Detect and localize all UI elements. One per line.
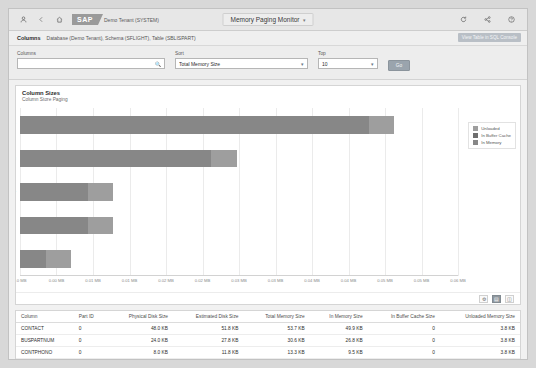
bar-group[interactable]: CONTPHONO — [20, 175, 458, 209]
person-icon[interactable] — [15, 12, 31, 28]
bar-group[interactable]: BUSPARTNUM — [20, 142, 458, 176]
table-column-header[interactable]: In Memory Size — [310, 311, 368, 323]
legend-label: In Memory — [481, 140, 501, 145]
sort-select[interactable]: Total Memory Size ▾ — [175, 58, 308, 69]
legend-item[interactable]: In Memory — [473, 140, 511, 145]
bar-segment[interactable] — [20, 183, 88, 200]
bar-segment[interactable] — [88, 217, 114, 234]
home-icon[interactable] — [51, 12, 67, 28]
chart-legend[interactable]: UnloadedIn Buffer CacheIn Memory — [468, 122, 516, 149]
table-column-header[interactable]: Part ID — [74, 311, 107, 323]
y-axis-category-label: CONTPHONO — [15, 189, 16, 194]
legend-swatch — [473, 126, 478, 131]
breadcrumb: Database (Demo Tenant), Schema (SFLIGHT)… — [47, 35, 196, 41]
legend-item[interactable]: In Buffer Cache — [473, 133, 511, 138]
table-cell: 0 — [368, 323, 440, 335]
share-icon[interactable] — [479, 12, 495, 28]
sub-header: Columns Database (Demo Tenant), Schema (… — [9, 31, 527, 46]
table-column-header[interactable]: Estimated Disk Size — [173, 311, 243, 323]
legend-label: Unloaded — [481, 126, 499, 131]
chart-toolbar: ⚙ ▤ ◫ — [16, 292, 520, 304]
chart-card-header: Column Sizes Column Store Paging — [16, 86, 520, 104]
table-cell: 3.8 KB — [440, 335, 520, 347]
view-table-in-sql-console-button[interactable]: View Table in SQL Console — [458, 33, 521, 42]
table-cell: 8.0 KB — [107, 347, 173, 359]
shell-bar-actions — [455, 9, 521, 30]
table-cell: CONTPHONO — [16, 347, 74, 359]
legend-swatch — [473, 140, 478, 145]
chart-card: Column Sizes Column Store Paging CONTACT… — [15, 85, 521, 305]
sub-header-label: Columns — [17, 35, 41, 41]
top-select-value: 10 — [322, 61, 369, 67]
shell-bar: SAP Demo Tenant (SYSTEM) Memory Paging M… — [9, 9, 527, 31]
back-icon[interactable] — [33, 12, 49, 28]
x-tick-label: 0.01 MB — [122, 278, 138, 283]
table-column-header[interactable]: Unloaded Memory Size — [440, 311, 520, 323]
settings-icon[interactable]: ⚙ — [479, 295, 488, 303]
table-row[interactable]: BUSPARTNUM024.0 KB27.8 KB30.6 KB26.8 KB0… — [16, 335, 520, 347]
table-cell: 27.8 KB — [173, 335, 243, 347]
table-cell: 0 — [74, 347, 107, 359]
refresh-icon[interactable] — [455, 12, 471, 28]
bar-segment[interactable] — [211, 150, 237, 167]
x-tick-label: 0.0 MB — [15, 278, 27, 283]
chart-title: Column Sizes — [22, 90, 514, 96]
chart-subtitle: Column Store Paging — [22, 97, 514, 102]
page-title-selector[interactable]: Memory Paging Monitor ▾ — [223, 13, 314, 26]
chart-plot-area: CONTACTBUSPARTNUMCONTPHONOMANDANTBUSPRTY… — [16, 104, 520, 292]
chevron-down-icon[interactable]: ▾ — [301, 61, 304, 67]
table-column-header[interactable]: In Buffer Cache Size — [368, 311, 440, 323]
table-cell: 9.5 KB — [310, 347, 368, 359]
table-column-header[interactable]: Column — [16, 311, 74, 323]
sort-select-value: Total Memory Size — [179, 61, 299, 67]
help-icon[interactable] — [503, 12, 519, 28]
table-cell: 13.3 KB — [243, 347, 309, 359]
y-axis-category-label: BUSPARTNUM — [15, 156, 16, 161]
bar-group[interactable]: MANDANT — [20, 209, 458, 243]
table-row[interactable]: CONTACT048.0 KB51.8 KB53.7 KB49.9 KB03.8… — [16, 323, 520, 335]
y-axis-category-label: CONTACT — [15, 122, 16, 127]
table-cell: 26.8 KB — [310, 335, 368, 347]
legend-swatch — [473, 133, 478, 138]
go-button[interactable]: Go — [388, 60, 410, 71]
table-header-row: ColumnPart IDPhysical Disk SizeEstimated… — [16, 311, 520, 323]
bar-chart-icon[interactable]: ▤ — [492, 295, 501, 303]
columns-filter-label: Columns — [17, 51, 165, 56]
data-table-card: ColumnPart IDPhysical Disk SizeEstimated… — [15, 310, 521, 360]
columns-input[interactable]: 🔍 — [17, 58, 165, 69]
bar-segment[interactable] — [88, 183, 114, 200]
bar-segment[interactable] — [20, 250, 46, 267]
table-cell: 0 — [368, 347, 440, 359]
bar-group[interactable]: CONTACT — [20, 108, 458, 142]
sort-filter-label: Sort — [175, 51, 308, 56]
table-cell: 0 — [74, 323, 107, 335]
bar-segment[interactable] — [369, 116, 395, 133]
bar-segment[interactable] — [20, 116, 369, 133]
bar-segment[interactable] — [46, 250, 72, 267]
x-axis-tick-labels: 0.0 MB0.00 MB0.01 MB0.01 MB0.02 MB0.02 M… — [20, 278, 458, 288]
bar-chart[interactable]: CONTACTBUSPARTNUMCONTPHONOMANDANTBUSPRTY… — [20, 108, 458, 292]
filter-bar: Columns 🔍 Sort Total Memory Size ▾ Top 1… — [9, 46, 527, 80]
top-filter-label: Top — [318, 51, 378, 56]
table-row[interactable]: CONTPHONO08.0 KB11.8 KB13.3 KB9.5 KB03.8… — [16, 347, 520, 359]
bar-group[interactable]: BUSPRTYP — [20, 242, 458, 276]
table-column-header[interactable]: Physical Disk Size — [107, 311, 173, 323]
x-tick-label: 0.04 MB — [304, 278, 320, 283]
bar-segment[interactable] — [20, 150, 211, 167]
legend-label: In Buffer Cache — [481, 133, 511, 138]
table-column-header[interactable]: Total Memory Size — [243, 311, 309, 323]
table-cell: 53.7 KB — [243, 323, 309, 335]
sap-logo[interactable]: SAP — [72, 14, 98, 25]
table-cell: 0 — [368, 335, 440, 347]
gridline — [458, 108, 459, 276]
value-help-icon[interactable]: 🔍 — [155, 61, 161, 67]
top-select[interactable]: 10 ▾ — [318, 58, 378, 69]
chevron-down-icon[interactable]: ▾ — [371, 61, 374, 67]
x-tick-label: 0.03 MB — [231, 278, 247, 283]
table-cell: BUSPARTNUM — [16, 335, 74, 347]
legend-item[interactable]: Unloaded — [473, 126, 511, 131]
bar-segment[interactable] — [20, 217, 88, 234]
table-icon[interactable]: ◫ — [505, 295, 514, 303]
y-axis-category-label: BUSPRTYP — [15, 257, 16, 262]
x-tick-label: 0.03 MB — [268, 278, 284, 283]
